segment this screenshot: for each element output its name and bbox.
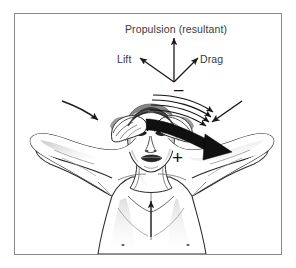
figure-illustration bbox=[0, 0, 296, 268]
force-vector-triad bbox=[140, 38, 198, 82]
lift-label: Lift bbox=[117, 54, 131, 65]
low-pressure-sign: – bbox=[174, 81, 183, 98]
lift-arrow bbox=[140, 58, 174, 82]
high-pressure-sign: + bbox=[172, 148, 183, 167]
propulsion-label: Propulsion (resultant) bbox=[125, 24, 227, 35]
figure-root: Propulsion (resultant) Lift Drag – + bbox=[0, 0, 296, 268]
water-inflow-left bbox=[62, 101, 98, 120]
drag-arrow bbox=[174, 58, 198, 82]
water-inflow-right bbox=[212, 101, 242, 122]
drag-label: Drag bbox=[200, 54, 223, 65]
